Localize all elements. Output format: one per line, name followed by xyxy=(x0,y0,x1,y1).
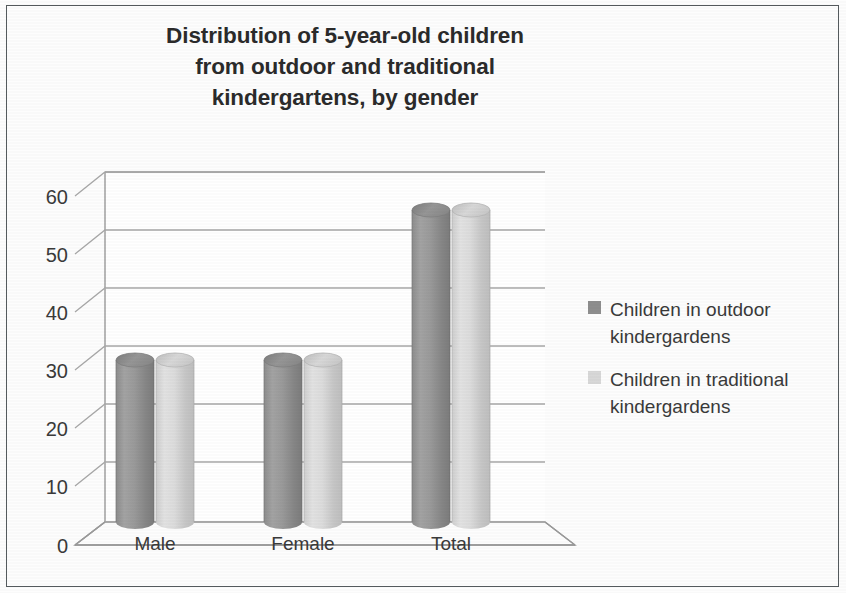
y-tick-50: 50 xyxy=(12,245,68,265)
y-tick-10: 10 xyxy=(12,477,68,497)
legend-swatch-outdoor-icon xyxy=(588,301,601,314)
bar-total-traditional xyxy=(452,203,490,529)
legend-label-outdoor: Children in outdoor kindergardens xyxy=(610,296,825,350)
legend-item-outdoor[interactable]: Children in outdoor kindergardens xyxy=(588,296,838,350)
y-tick-60: 60 xyxy=(12,187,68,207)
legend-item-traditional[interactable]: Children in traditional kindergardens xyxy=(588,366,838,420)
chart-legend: Children in outdoor kindergardens Childr… xyxy=(588,296,838,436)
legend-swatch-traditional-icon xyxy=(588,371,601,384)
y-tick-30: 30 xyxy=(12,361,68,381)
bar-total-outdoor xyxy=(412,203,450,529)
x-tick-total: Total xyxy=(381,534,521,553)
x-tick-male: Male xyxy=(85,534,225,553)
x-tick-female: Female xyxy=(233,534,373,553)
bar-female-traditional xyxy=(304,353,342,529)
y-tick-20: 20 xyxy=(12,419,68,439)
legend-label-traditional: Children in traditional kindergardens xyxy=(610,366,825,420)
bar-male-traditional xyxy=(156,353,194,529)
bar-female-outdoor xyxy=(264,353,302,529)
bar-male-outdoor xyxy=(116,353,154,529)
chart-figure: Distribution of 5-year-old children from… xyxy=(0,0,846,593)
y-tick-40: 40 xyxy=(12,303,68,323)
y-tick-0: 0 xyxy=(12,536,68,556)
